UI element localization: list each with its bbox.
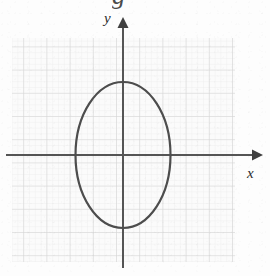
y-axis-arrowhead <box>118 17 129 28</box>
ellipse-graph-figure: g <box>0 0 270 276</box>
x-axis-arrowhead <box>252 150 263 161</box>
x-axis-label: x <box>247 166 254 181</box>
graph-canvas <box>0 0 270 276</box>
y-axis-label: y <box>104 11 111 26</box>
